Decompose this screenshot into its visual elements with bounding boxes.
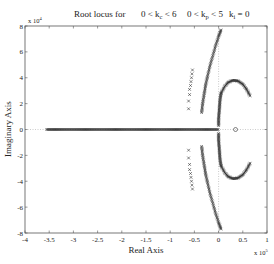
svg-text:6: 6 (20, 48, 24, 56)
root-locus-chart: -4-3.5-3-2.5-2-1.5-1-0.500.51-8-6-4-2024… (0, 0, 274, 264)
svg-text:-2: -2 (119, 236, 125, 244)
svg-text:1: 1 (265, 236, 269, 244)
chart-title: Root locus for 0 < kc < 6 0 < kp < 5 ki … (74, 9, 250, 20)
svg-text:-3: -3 (70, 236, 76, 244)
svg-text:4: 4 (20, 74, 24, 82)
svg-text:-3.5: -3.5 (44, 236, 56, 244)
svg-text:-1: -1 (167, 236, 173, 244)
svg-text:8: 8 (20, 23, 24, 31)
svg-text:-8: -8 (17, 230, 23, 238)
y-axis-label: Imaginary Axis (3, 101, 13, 157)
axis-ticks: -4-3.5-3-2.5-2-1.5-1-0.500.51-8-6-4-2024… (17, 23, 269, 245)
svg-text:-0.5: -0.5 (189, 236, 201, 244)
svg-text:-6: -6 (17, 204, 23, 212)
svg-text:-2.5: -2.5 (92, 236, 104, 244)
svg-text:0: 0 (20, 126, 24, 134)
svg-text:-2: -2 (17, 152, 23, 160)
x-axis-label: Real Axis (128, 245, 164, 255)
x-multiplier: x 105 (254, 248, 268, 256)
svg-text:2: 2 (20, 100, 24, 108)
y-multiplier: x 104 (28, 16, 42, 24)
svg-text:0.5: 0.5 (238, 236, 247, 244)
svg-text:-4: -4 (22, 236, 28, 244)
svg-text:0: 0 (217, 236, 221, 244)
svg-text:-4: -4 (17, 178, 23, 186)
svg-text:-1.5: -1.5 (140, 236, 152, 244)
